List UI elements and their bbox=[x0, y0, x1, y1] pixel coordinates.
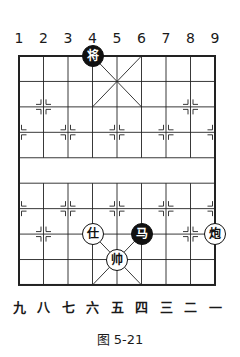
file-label: 九 bbox=[9, 298, 29, 318]
file-label: 二 bbox=[181, 298, 201, 318]
file-label: 一 bbox=[205, 298, 225, 318]
red-advisor-piece: 仕 bbox=[82, 223, 104, 245]
file-label: 三 bbox=[156, 298, 176, 318]
file-label: 八 bbox=[34, 298, 54, 318]
black-horse-piece: 马 bbox=[131, 223, 153, 245]
figure-caption: 图 5-21 bbox=[0, 330, 240, 350]
file-label: 七 bbox=[58, 298, 78, 318]
file-label: 六 bbox=[83, 298, 103, 318]
bottom-file-labels: 九 八 七 六 五 四 三 二 一 bbox=[0, 298, 240, 318]
file-label: 五 bbox=[107, 298, 127, 318]
red-cannon-piece: 炮 bbox=[204, 223, 226, 245]
black-general-piece: 将 bbox=[82, 45, 104, 67]
file-label: 四 bbox=[132, 298, 152, 318]
red-king-piece: 帅 bbox=[106, 249, 128, 271]
